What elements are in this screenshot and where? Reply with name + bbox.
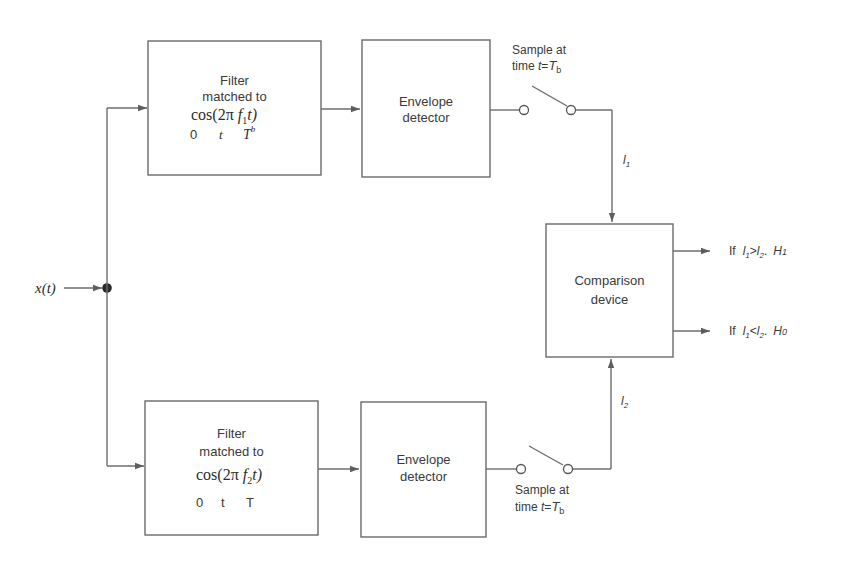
upper-matched-filter: Filter matched to cos(2π f1t) 0 t Tb	[148, 41, 321, 175]
upper-filter-range-t: t	[219, 127, 223, 142]
input-signal-label: x(t)	[34, 280, 56, 297]
upper-envelope-line2: detector	[403, 110, 451, 125]
upper-sampler-label-line2: time t=Tb	[512, 58, 561, 75]
lower-output-label: l2	[621, 394, 629, 410]
comparison-line1: Comparison	[574, 273, 644, 288]
lower-sampler-label-line1: Sample at	[515, 483, 570, 497]
lower-filter-range-T: T	[246, 495, 254, 510]
lower-envelope-line1: Envelope	[396, 452, 450, 467]
lower-sampler-switch	[486, 446, 611, 474]
upper-filter-line1: Filter	[220, 73, 250, 88]
lower-sampler-label-line2: time t=Tb	[515, 499, 564, 516]
upper-output-label: l1	[623, 153, 630, 169]
comparison-device: Comparison device	[546, 224, 673, 357]
upper-filter-range-0: 0	[190, 127, 197, 142]
lower-envelope-detector: Envelope detector	[361, 402, 486, 537]
noncoherent-fsk-receiver-diagram: x(t) Filter matched to cos(2π f1t) 0 t T…	[0, 0, 853, 561]
decision-h1-label: Ifl1>l2.H1	[729, 244, 787, 260]
lower-filter-range-0: 0	[196, 495, 203, 510]
lower-filter-line2: matched to	[199, 444, 263, 459]
upper-envelope-line1: Envelope	[399, 94, 453, 109]
lower-filter-line1: Filter	[217, 426, 247, 441]
upper-filter-line2: matched to	[202, 89, 266, 104]
upper-sampler-switch	[490, 86, 612, 115]
lower-matched-filter: Filter matched to cos(2π f2t) 0 t T	[145, 401, 318, 535]
lower-envelope-line2: detector	[400, 469, 448, 484]
lower-filter-range-t: t	[221, 495, 225, 510]
decision-h0-label: Ifl1<l2.H0	[729, 324, 787, 340]
upper-sampler-label-line1: Sample at	[512, 43, 567, 57]
comparison-line2: device	[591, 292, 629, 307]
upper-envelope-detector: Envelope detector	[362, 40, 490, 177]
